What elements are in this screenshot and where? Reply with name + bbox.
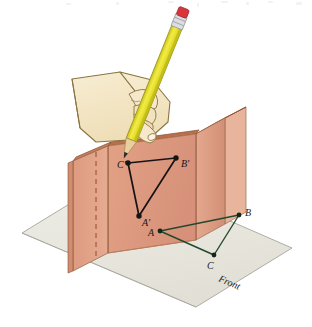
illustration-canvas: C' B' A' A B C Front [0, 0, 312, 327]
projection-illustration: C' B' A' A B C Front [0, 0, 312, 327]
right-panel-face [196, 118, 225, 240]
left-panel-face [73, 146, 108, 271]
base-vertex-a [158, 229, 163, 234]
right-panel [196, 107, 246, 240]
label-b: B [245, 207, 251, 218]
label-c-prime: C' [117, 159, 127, 170]
projected-vertex-c-prime [125, 160, 130, 165]
projected-vertex-b-prime [173, 155, 178, 160]
label-c: C [207, 260, 214, 271]
left-panel [68, 142, 111, 273]
right-panel-outer-face [225, 107, 246, 224]
projected-vertex-a-prime [136, 213, 141, 218]
base-vertex-b [237, 213, 242, 218]
left-panel-return-edge [68, 161, 73, 273]
label-a: A [147, 227, 155, 238]
base-vertex-c [212, 253, 217, 258]
label-b-prime: B' [181, 158, 190, 169]
